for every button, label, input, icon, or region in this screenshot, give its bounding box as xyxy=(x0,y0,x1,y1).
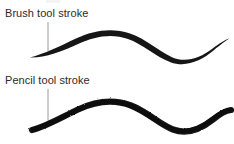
brush-stroke xyxy=(30,30,229,64)
pencil-stroke xyxy=(32,102,231,132)
stroke-artwork-layer xyxy=(0,0,234,144)
pencil-stroke-label: Pencil tool stroke xyxy=(5,74,90,87)
cropped-text-artifact xyxy=(46,0,60,3)
stroke-comparison-figure: Brush tool stroke Pencil tool stroke xyxy=(0,0,234,144)
brush-stroke-label: Brush tool stroke xyxy=(5,7,88,20)
